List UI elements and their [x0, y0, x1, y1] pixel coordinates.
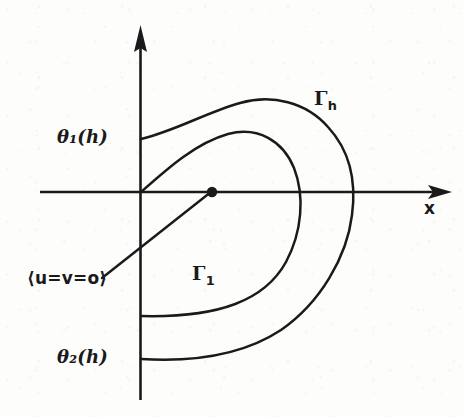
label-gamma-1: Γ1	[192, 264, 215, 288]
theta2-text: θ₂(h)	[57, 346, 108, 367]
label-theta2: θ₂(h)	[57, 348, 108, 366]
x-axis-label-text: x	[424, 198, 435, 218]
equilibrium-point-marker	[207, 187, 217, 197]
x-axis	[40, 185, 452, 199]
label-x-axis: x	[424, 200, 435, 217]
label-origin-annotation: ⟨u=v=o⟩	[27, 270, 107, 287]
gamma-h-subscript: h	[328, 98, 337, 113]
theta1-text: θ₁(h)	[57, 126, 108, 147]
gamma-1-subscript: 1	[206, 273, 215, 288]
gamma-h-symbol: Γ	[314, 87, 328, 109]
gamma-1-symbol: Γ	[192, 262, 206, 284]
phase-plane-figure: θ₁(h) θ₂(h) ⟨u=v=o⟩ Γh Γ1 x	[0, 0, 464, 417]
y-axis-arrowhead-icon	[134, 25, 147, 52]
curve-gamma-1	[141, 132, 301, 316]
label-gamma-h: Γh	[314, 89, 337, 113]
origin-annotation-text: ⟨u=v=o⟩	[27, 268, 107, 288]
curve-gamma-h	[141, 99, 353, 359]
y-axis	[134, 25, 147, 400]
label-theta1: θ₁(h)	[57, 128, 108, 146]
